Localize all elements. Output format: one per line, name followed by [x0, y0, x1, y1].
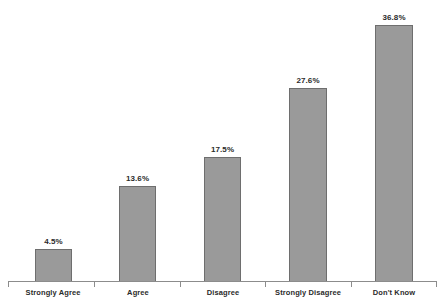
x-axis-category-labels: Strongly Agree Agree Disagree Strongly D…	[0, 288, 444, 308]
x-axis-label-disagree: Disagree	[207, 288, 240, 298]
bar-value-strongly-agree: 4.5%	[44, 237, 63, 246]
x-axis-label-dont-know: Don't Know	[373, 288, 415, 298]
bar-group-dont-know: 36.8%	[375, 0, 413, 282]
bar-value-dont-know: 36.8%	[382, 13, 405, 22]
x-axis-label-agree: Agree	[127, 288, 149, 298]
x-axis-tick-3	[265, 281, 266, 287]
x-axis-line	[8, 281, 437, 282]
x-axis-tick-start	[8, 281, 9, 287]
x-axis-tick-1	[94, 281, 95, 287]
x-axis-label-strongly-agree: Strongly Agree	[26, 288, 81, 298]
x-axis-tick-4	[351, 281, 352, 287]
bar-value-agree: 13.6%	[126, 174, 149, 183]
x-axis-tick-end	[436, 281, 437, 287]
bar-strongly-agree[interactable]	[35, 249, 72, 282]
bar-chart: 4.5% 13.6% 17.5% 27.6% 36.8% Str	[0, 0, 444, 308]
bar-group-strongly-disagree: 27.6%	[289, 0, 327, 282]
bar-disagree[interactable]	[204, 157, 241, 282]
bar-dont-know[interactable]	[375, 25, 413, 282]
x-axis-label-strongly-disagree: Strongly Disagree	[275, 288, 341, 298]
bar-value-disagree: 17.5%	[211, 145, 234, 154]
plot-area: 4.5% 13.6% 17.5% 27.6% 36.8%	[0, 0, 444, 282]
bar-value-strongly-disagree: 27.6%	[296, 76, 319, 85]
bar-agree[interactable]	[119, 186, 156, 282]
bar-group-strongly-agree: 4.5%	[35, 0, 72, 282]
bar-group-agree: 13.6%	[119, 0, 156, 282]
x-axis-tick-2	[180, 281, 181, 287]
bar-group-disagree: 17.5%	[204, 0, 241, 282]
bar-strongly-disagree[interactable]	[289, 88, 327, 282]
